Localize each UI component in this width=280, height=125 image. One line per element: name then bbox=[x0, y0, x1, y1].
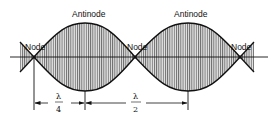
label-node-left: Node bbox=[25, 42, 46, 52]
label-antinode-right: Antinode bbox=[174, 9, 208, 19]
quarter-denominator: 4 bbox=[56, 105, 61, 114]
standing-wave-diagram: Node Antinode Node Antinode Node λ 4 λ 2 bbox=[0, 0, 280, 125]
node-point-right bbox=[238, 55, 241, 58]
half-denominator: 2 bbox=[133, 105, 138, 114]
dimension-quarter-wavelength: λ 4 bbox=[35, 92, 84, 114]
label-antinode-left: Antinode bbox=[72, 9, 106, 19]
label-node-right: Node bbox=[231, 42, 252, 52]
dimension-half-wavelength: λ 2 bbox=[86, 92, 187, 114]
half-numerator: λ bbox=[133, 92, 138, 101]
quarter-numerator: λ bbox=[56, 92, 61, 101]
node-point-center bbox=[133, 55, 136, 58]
label-node-center: Node bbox=[127, 42, 148, 52]
